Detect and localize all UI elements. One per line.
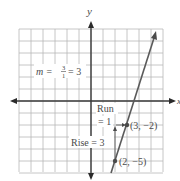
run-label: Run bbox=[97, 103, 114, 114]
slope-denominator: 1 bbox=[62, 72, 65, 79]
x-axis-left-arrow-icon bbox=[10, 98, 17, 104]
point-label-2-neg5: (2, −5) bbox=[119, 156, 146, 168]
slope-annotation: m = 3 1 = 3 bbox=[34, 64, 86, 79]
rise-arrow-head-icon bbox=[113, 126, 117, 131]
slope-rhs: = 3 bbox=[68, 66, 81, 77]
point-3-neg2 bbox=[125, 123, 129, 127]
y-axis-down-arrow-icon bbox=[88, 173, 94, 180]
coordinate-plane: y x (3, −2) (2, −5) m = 3 1 = 3 Run = 1 … bbox=[0, 0, 180, 181]
slope-lhs: m = bbox=[36, 66, 52, 77]
y-axis-up-arrow-icon bbox=[88, 21, 94, 28]
x-axis-right-arrow-icon bbox=[169, 98, 176, 104]
slope-numerator: 3 bbox=[62, 64, 65, 71]
run-arrow bbox=[116, 123, 126, 127]
point-2-neg5 bbox=[113, 159, 117, 163]
rise-annotation: Rise = 3 bbox=[69, 136, 114, 148]
plotted-line bbox=[111, 31, 157, 173]
y-axis-label: y bbox=[86, 5, 92, 17]
run-value: = 1 bbox=[98, 116, 111, 127]
point-label-3-neg2: (3, −2) bbox=[130, 120, 157, 132]
line-arrow-icon bbox=[151, 31, 157, 40]
rise-label: Rise = 3 bbox=[71, 137, 104, 148]
x-axis-label: x bbox=[176, 96, 180, 106]
